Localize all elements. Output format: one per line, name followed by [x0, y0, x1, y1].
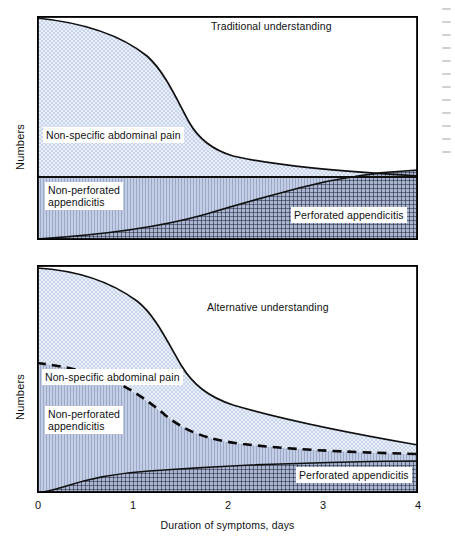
- x-tick-0: 0: [28, 499, 48, 511]
- region-label-perforated-alternative: Perforated appendicitis: [296, 467, 412, 483]
- x-tick-4: 4: [408, 499, 428, 511]
- region-label-perforated-traditional: Perforated appendicitis: [291, 207, 407, 223]
- x-axis-label: Duration of symptoms, days: [0, 519, 455, 531]
- y-axis-label-traditional: Numbers: [14, 124, 26, 170]
- x-tick-2: 2: [218, 499, 238, 511]
- panel-title-alternative: Alternative understanding: [204, 299, 332, 315]
- figure-appendicitis-progression: Numbers Traditional understanding Non-sp…: [0, 0, 455, 538]
- region-label-non-perforated-traditional: Non-perforated appendicitis: [45, 182, 123, 210]
- y-axis-label-alternative: Numbers: [14, 374, 26, 420]
- panel-title-traditional: Traditional understanding: [208, 18, 335, 34]
- region-label-non-perforated-alternative: Non-perforated appendicitis: [45, 406, 123, 434]
- region-label-nsap-traditional: Non-specific abdominal pain: [43, 127, 184, 143]
- x-tick-3: 3: [313, 499, 333, 511]
- scan-artifact-margin: [441, 8, 455, 188]
- x-tick-1: 1: [123, 499, 143, 511]
- area-nsap-traditional: [37, 18, 418, 177]
- region-label-nsap-alternative: Non-specific abdominal pain: [42, 369, 183, 385]
